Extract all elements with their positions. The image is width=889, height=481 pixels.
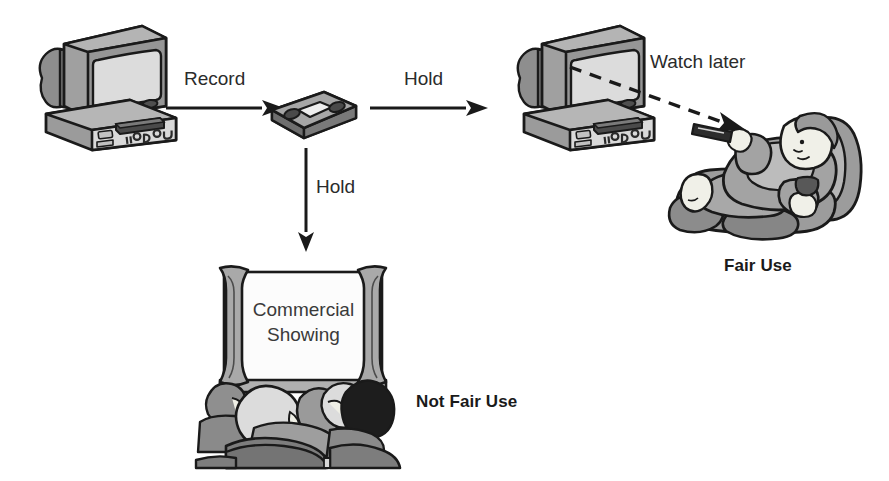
person-in-recliner bbox=[668, 100, 873, 245]
edge-label-watch-later: Watch later bbox=[650, 51, 745, 73]
vhs-tape-art bbox=[268, 88, 360, 146]
edge-hold-right-arrow bbox=[370, 96, 490, 120]
vhs-tape bbox=[268, 88, 360, 146]
television-vcr-source bbox=[30, 18, 180, 150]
person-in-recliner-art bbox=[668, 100, 873, 245]
diagram-canvas: Record Hold Hold bbox=[0, 0, 889, 481]
outcome-label-not-fair-use: Not Fair Use bbox=[416, 392, 517, 412]
television-vcr-source-art bbox=[30, 18, 180, 150]
cinema-screen-text-line-2: Showing bbox=[196, 323, 411, 347]
outcome-label-fair-use: Fair Use bbox=[724, 256, 792, 276]
cinema-screen-text-line-1: Commercial bbox=[196, 298, 411, 322]
edge-hold-down-arrow bbox=[294, 148, 318, 254]
edge-label-hold-down: Hold bbox=[316, 176, 355, 198]
edge-label-hold-right: Hold bbox=[404, 68, 443, 90]
cinema-audience: Commercial Showing bbox=[196, 262, 411, 468]
remote-control-icon bbox=[692, 124, 732, 142]
edge-label-record: Record bbox=[184, 68, 245, 90]
cinema-audience-art bbox=[196, 262, 411, 468]
